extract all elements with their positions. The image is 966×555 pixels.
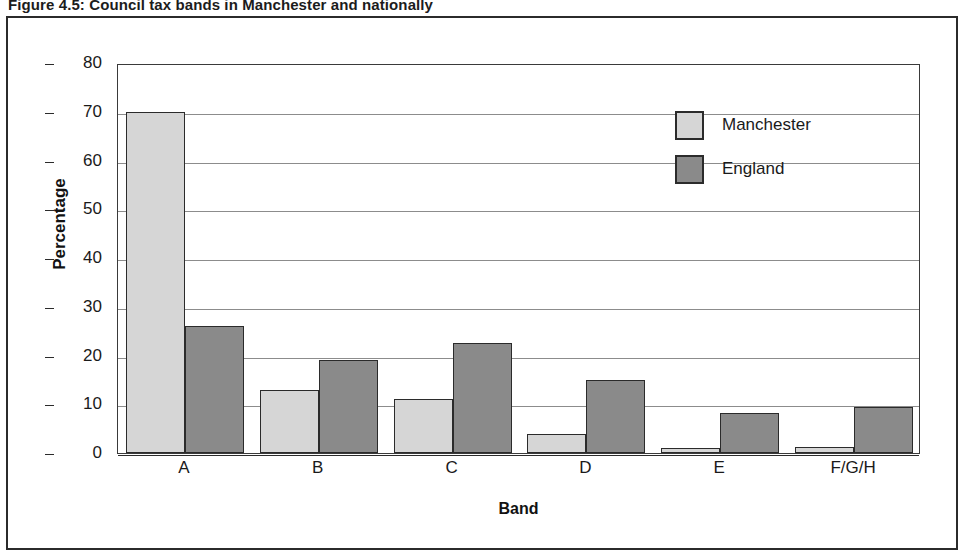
bar-manchester-D	[527, 434, 586, 454]
y-axis-tick	[45, 308, 54, 309]
bar-manchester-F-G-H	[795, 447, 854, 453]
bar-manchester-B	[260, 390, 319, 453]
y-axis-tick-label: 60	[62, 151, 102, 171]
y-axis-tick-label: 40	[62, 248, 102, 268]
bar-england-C	[453, 343, 512, 453]
bar-manchester-C	[394, 399, 453, 453]
bar-manchester-A	[126, 112, 185, 453]
x-axis-tick-label: D	[579, 458, 591, 478]
y-axis-tick-label: 10	[62, 394, 102, 414]
gridline	[118, 455, 919, 456]
x-axis-tick-label: A	[178, 458, 189, 478]
y-axis-tick-label: 20	[62, 346, 102, 366]
x-axis-tick-label: C	[445, 458, 457, 478]
y-axis-tick-label: 50	[62, 199, 102, 219]
bar-england-E	[720, 413, 779, 453]
y-axis-labels: 80706050403020100	[54, 64, 102, 454]
x-axis-tick-label: F/G/H	[830, 458, 875, 478]
gridline	[118, 260, 919, 261]
gridline	[118, 211, 919, 212]
x-axis-tick-label: E	[714, 458, 725, 478]
y-axis-tick	[45, 162, 54, 163]
y-axis-tick	[45, 357, 54, 358]
legend-label: England	[722, 159, 784, 179]
bar-england-A	[185, 326, 244, 453]
y-axis-tick	[45, 454, 54, 455]
y-axis-tick-label: 80	[62, 53, 102, 73]
bar-england-F-G-H	[854, 407, 913, 453]
legend-swatch-england	[675, 155, 704, 184]
legend-item-england[interactable]: England	[675, 147, 855, 191]
x-axis-tick-label: B	[312, 458, 323, 478]
bar-england-B	[319, 360, 378, 453]
bar-manchester-E	[661, 448, 720, 453]
y-axis-tick-label: 0	[62, 443, 102, 463]
y-axis-tick-label: 30	[62, 297, 102, 317]
legend-label: Manchester	[722, 115, 811, 135]
y-axis-tick	[45, 113, 54, 114]
gridline	[118, 309, 919, 310]
y-axis-tick	[45, 64, 54, 65]
y-axis-tick	[45, 259, 54, 260]
chart-legend: ManchesterEngland	[675, 103, 855, 191]
y-axis-tick-label: 70	[62, 102, 102, 122]
bar-england-D	[586, 380, 645, 453]
y-axis-tick	[45, 405, 54, 406]
legend-swatch-manchester	[675, 111, 704, 140]
x-axis-labels: ABCDEF/G/H	[117, 458, 920, 486]
legend-item-manchester[interactable]: Manchester	[675, 103, 855, 147]
x-axis-title: Band	[117, 500, 920, 518]
y-axis-tick	[45, 210, 54, 211]
chart-frame: Percentage 80706050403020100 ABCDEF/G/H …	[6, 16, 958, 550]
figure-caption: Figure 4.5: Council tax bands in Manches…	[8, 0, 433, 13]
